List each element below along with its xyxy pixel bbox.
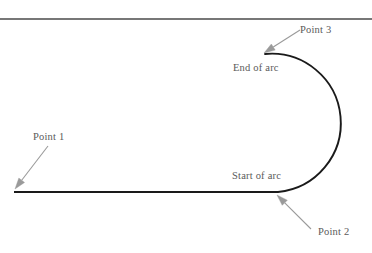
label-point-3: Point 3 — [300, 24, 331, 36]
label-point-2: Point 2 — [318, 226, 349, 238]
figure-container: Point 3 End of arc Point 1 Start of arc … — [0, 0, 372, 253]
label-start-of-arc: Start of arc — [232, 170, 281, 182]
canvas-background — [0, 0, 372, 253]
arc-diagram-canvas — [0, 0, 372, 253]
label-point-1: Point 1 — [33, 131, 64, 143]
label-end-of-arc: End of arc — [233, 62, 279, 74]
